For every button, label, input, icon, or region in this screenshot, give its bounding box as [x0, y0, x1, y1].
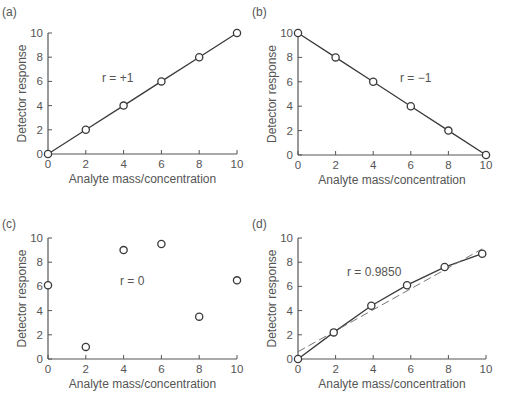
data-point-marker — [441, 263, 448, 270]
y-tick-label: 0 — [37, 353, 43, 365]
y-tick-label: 10 — [280, 27, 293, 39]
y-tick-label: 4 — [37, 305, 44, 317]
figure: (a)02468100246810Analyte mass/concentrat… — [0, 0, 505, 398]
data-point-marker — [330, 329, 337, 336]
x-tick-label: 4 — [120, 158, 127, 170]
x-axis-label: Analyte mass/concentration — [69, 172, 216, 186]
y-tick-label: 10 — [30, 27, 43, 39]
x-tick-label: 8 — [196, 158, 202, 170]
y-tick-label: 2 — [287, 329, 293, 341]
panel-label: (c) — [2, 217, 16, 231]
y-tick-label: 2 — [287, 125, 293, 137]
x-tick-label: 0 — [45, 158, 51, 170]
data-point-marker — [233, 29, 240, 36]
x-tick-label: 2 — [332, 363, 338, 375]
y-tick-label: 6 — [37, 280, 43, 292]
y-tick-label: 4 — [287, 100, 294, 112]
data-line — [48, 33, 237, 154]
panel-label: (a) — [2, 5, 17, 19]
data-point-marker — [82, 343, 89, 350]
chart-panel-d: (d)02468100246810Analyte mass/concentrat… — [252, 217, 492, 391]
y-tick-label: 8 — [37, 51, 43, 63]
data-point-marker — [332, 54, 339, 61]
data-point-marker — [370, 78, 377, 85]
data-line — [298, 33, 486, 155]
data-point-marker — [196, 313, 203, 320]
y-axis-label: Detector response — [15, 249, 29, 347]
y-tick-label: 2 — [37, 124, 43, 136]
correlation-annotation: r = 0.9850 — [347, 265, 402, 279]
x-tick-label: 10 — [231, 158, 244, 170]
x-tick-label: 2 — [83, 158, 89, 170]
x-tick-label: 4 — [120, 363, 127, 375]
data-point-marker — [403, 282, 410, 289]
x-axis-label: Analyte mass/concentration — [318, 173, 465, 187]
x-tick-label: 6 — [158, 158, 164, 170]
y-tick-label: 10 — [30, 232, 43, 244]
y-tick-label: 6 — [287, 76, 293, 88]
chart-canvas: (a)02468100246810Analyte mass/concentrat… — [0, 0, 505, 398]
correlation-annotation: r = 0 — [120, 274, 145, 288]
x-axis-label: Analyte mass/concentration — [69, 377, 216, 391]
data-point-marker — [120, 102, 127, 109]
y-tick-label: 4 — [287, 305, 294, 317]
x-tick-label: 10 — [480, 159, 493, 171]
x-tick-label: 6 — [158, 363, 164, 375]
y-axis-label: Detector response — [15, 44, 29, 142]
data-point-marker — [44, 282, 51, 289]
x-tick-label: 2 — [83, 363, 89, 375]
y-tick-label: 0 — [287, 353, 293, 365]
data-point-marker — [294, 355, 301, 362]
data-point-marker — [368, 302, 375, 309]
data-point-marker — [294, 29, 301, 36]
chart-panel-a: (a)02468100246810Analyte mass/concentrat… — [2, 5, 243, 186]
x-tick-label: 8 — [445, 159, 451, 171]
y-tick-label: 8 — [287, 51, 293, 63]
chart-panel-b: (b)02468100246810Analyte mass/concentrat… — [252, 5, 492, 187]
y-axis-label: Detector response — [265, 45, 279, 143]
x-tick-label: 8 — [196, 363, 202, 375]
x-tick-label: 6 — [408, 363, 414, 375]
correlation-annotation: r = −1 — [400, 71, 432, 85]
data-point-marker — [233, 277, 240, 284]
x-tick-label: 10 — [480, 363, 493, 375]
panel-label: (d) — [252, 217, 267, 231]
data-point-marker — [407, 103, 414, 110]
y-tick-label: 8 — [37, 256, 43, 268]
y-tick-label: 8 — [287, 256, 293, 268]
y-tick-label: 6 — [287, 280, 293, 292]
y-tick-label: 10 — [280, 232, 293, 244]
x-tick-label: 0 — [45, 363, 51, 375]
data-point-marker — [120, 247, 127, 254]
data-point-marker — [82, 126, 89, 133]
y-axis-label: Detector response — [265, 249, 279, 347]
y-tick-label: 0 — [287, 149, 293, 161]
data-point-marker — [44, 150, 51, 157]
x-tick-label: 6 — [408, 159, 414, 171]
x-tick-label: 4 — [370, 159, 377, 171]
x-axis-label: Analyte mass/concentration — [318, 377, 465, 391]
y-tick-label: 0 — [37, 148, 43, 160]
x-tick-label: 10 — [231, 363, 244, 375]
data-point-marker — [445, 127, 452, 134]
data-point-marker — [482, 151, 489, 158]
x-tick-label: 0 — [295, 363, 301, 375]
y-tick-label: 2 — [37, 329, 43, 341]
x-tick-label: 2 — [332, 159, 338, 171]
panel-label: (b) — [252, 5, 267, 19]
x-tick-label: 4 — [370, 363, 377, 375]
x-tick-label: 0 — [295, 159, 301, 171]
chart-panel-c: (c)02468100246810Analyte mass/concentrat… — [2, 217, 243, 391]
y-tick-label: 6 — [37, 75, 43, 87]
data-point-marker — [158, 78, 165, 85]
data-point-marker — [158, 240, 165, 247]
correlation-annotation: r = +1 — [102, 71, 134, 85]
y-tick-label: 4 — [37, 100, 44, 112]
x-tick-label: 8 — [445, 363, 451, 375]
data-point-marker — [196, 54, 203, 61]
data-point-marker — [479, 250, 486, 257]
